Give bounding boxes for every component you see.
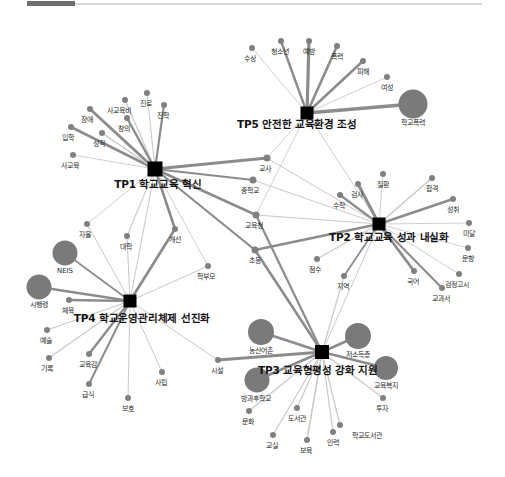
graph-node-label: 사립 bbox=[155, 380, 167, 387]
graph-node-label: 시설 bbox=[211, 368, 223, 375]
graph-node[interactable] bbox=[84, 221, 90, 227]
graph-node[interactable] bbox=[144, 90, 150, 96]
graph-node[interactable] bbox=[124, 233, 130, 239]
graph-node[interactable] bbox=[341, 273, 347, 279]
graph-node[interactable] bbox=[99, 130, 105, 136]
graph-node-label: 창의 bbox=[118, 126, 130, 133]
graph-node-label: 진로 bbox=[140, 101, 152, 108]
graph-node[interactable] bbox=[314, 256, 320, 262]
graph-node-label: 체육 bbox=[62, 308, 74, 315]
graph-node-label: 교실 bbox=[266, 443, 278, 450]
graph-node[interactable] bbox=[456, 271, 462, 277]
graph-node[interactable] bbox=[278, 38, 284, 44]
graph-node[interactable] bbox=[68, 124, 74, 130]
graph-node-label: 수학 bbox=[333, 203, 345, 210]
graph-node-label: 문화 bbox=[242, 419, 254, 426]
graph-node[interactable] bbox=[345, 323, 371, 349]
graph-node[interactable] bbox=[384, 74, 390, 80]
graph-node[interactable] bbox=[330, 429, 336, 435]
graph-node[interactable] bbox=[334, 43, 340, 49]
graph-node[interactable] bbox=[248, 319, 274, 345]
graph-node-label: 수상 bbox=[244, 56, 256, 63]
graph-hub-label-tp4: TP4 학교운영관리체제 선진화 bbox=[74, 313, 210, 324]
graph-edge bbox=[155, 158, 267, 169]
graph-node[interactable] bbox=[380, 171, 386, 177]
graph-edge bbox=[69, 300, 130, 301]
graph-hub-label-tp1: TP1 학교교육 혁신 bbox=[114, 179, 201, 190]
graph-node-label: 자율 bbox=[79, 232, 91, 239]
graph-node-label: 점수 bbox=[309, 267, 321, 274]
graph-edge bbox=[89, 301, 130, 354]
graph-node[interactable] bbox=[411, 268, 417, 274]
graph-node[interactable] bbox=[355, 181, 361, 187]
graph-node-label: 학교폭력 bbox=[401, 120, 425, 127]
graph-node[interactable] bbox=[429, 175, 435, 181]
graph-hub-tp2[interactable] bbox=[373, 218, 386, 231]
graph-node-label: 개선 bbox=[169, 237, 181, 244]
graph-node[interactable] bbox=[450, 196, 456, 202]
graph-node[interactable] bbox=[252, 247, 259, 254]
graph-hub-tp1[interactable] bbox=[148, 162, 163, 177]
graph-node-label: 사교육비 bbox=[107, 108, 131, 115]
graph-node[interactable] bbox=[250, 177, 257, 184]
graph-node[interactable] bbox=[70, 152, 76, 158]
graph-node[interactable] bbox=[337, 422, 343, 428]
graph-node[interactable] bbox=[439, 285, 445, 291]
graph-node-label: 지역 bbox=[337, 284, 349, 291]
graph-node[interactable] bbox=[270, 432, 276, 438]
graph-node-label: 피해 bbox=[357, 69, 369, 76]
graph-edge bbox=[307, 104, 413, 113]
graph-node-label: 보호 bbox=[122, 406, 134, 413]
graph-node-label: 폭력 bbox=[331, 54, 343, 61]
graph-node[interactable] bbox=[465, 245, 471, 251]
graph-node-label: 방과후학교 bbox=[241, 396, 271, 403]
graph-node-label: NEIS bbox=[57, 268, 73, 275]
graph-hub-tp3[interactable] bbox=[315, 345, 329, 359]
graph-node[interactable] bbox=[246, 408, 252, 414]
graph-node[interactable] bbox=[124, 115, 130, 121]
graph-node[interactable] bbox=[87, 106, 93, 112]
graph-node[interactable] bbox=[306, 38, 312, 44]
graph-node[interactable] bbox=[253, 212, 260, 219]
graph-node[interactable] bbox=[294, 405, 300, 411]
graph-node[interactable] bbox=[66, 297, 72, 303]
graph-node[interactable] bbox=[27, 275, 52, 300]
graph-node[interactable] bbox=[53, 241, 78, 266]
graph-node-label: 성적 bbox=[93, 141, 105, 148]
graph-node-label: 진학 bbox=[157, 113, 169, 120]
graph-node-label: 입학 bbox=[62, 135, 74, 142]
graph-node-label: 투자 bbox=[376, 406, 388, 413]
graph-hub-tp4[interactable] bbox=[124, 295, 137, 308]
graph-node-label: 합격 bbox=[426, 186, 438, 193]
graph-node-label: 보육 bbox=[300, 448, 312, 455]
graph-node[interactable] bbox=[125, 395, 131, 401]
graph-node[interactable] bbox=[466, 220, 472, 226]
graph-node[interactable] bbox=[249, 45, 255, 51]
graph-node[interactable] bbox=[86, 351, 92, 357]
graph-node-label: 청소년 bbox=[271, 49, 289, 56]
graph-edge bbox=[379, 223, 469, 224]
graph-node[interactable] bbox=[44, 327, 50, 333]
graph-node-label: 교과서 bbox=[432, 296, 450, 303]
graph-node-label: 예술 bbox=[40, 338, 52, 345]
graph-node[interactable] bbox=[86, 381, 92, 387]
graph-node[interactable] bbox=[159, 369, 165, 375]
graph-node-label: 미달 bbox=[463, 231, 475, 238]
graph-node[interactable] bbox=[304, 437, 310, 443]
graph-node[interactable] bbox=[215, 357, 221, 363]
graph-node[interactable] bbox=[172, 226, 178, 232]
graph-node-label: 국어 bbox=[407, 279, 419, 286]
graph-node[interactable] bbox=[399, 90, 428, 119]
graph-edge bbox=[256, 215, 379, 224]
graph-node[interactable] bbox=[264, 155, 271, 162]
graph-node[interactable] bbox=[337, 192, 343, 198]
network-diagram-page: 수상청소년예방폭력피해여성학교폭력사교육비진로진학장애창의입학성적사교육교사중학… bbox=[0, 0, 505, 477]
graph-node-label: 문항 bbox=[462, 256, 474, 263]
graph-node-label: 검사 bbox=[351, 192, 363, 199]
graph-node[interactable] bbox=[360, 58, 366, 64]
graph-node[interactable] bbox=[161, 102, 167, 108]
graph-node[interactable] bbox=[122, 97, 128, 103]
graph-node[interactable] bbox=[205, 263, 211, 269]
graph-node[interactable] bbox=[380, 395, 386, 401]
graph-node[interactable] bbox=[46, 355, 52, 361]
